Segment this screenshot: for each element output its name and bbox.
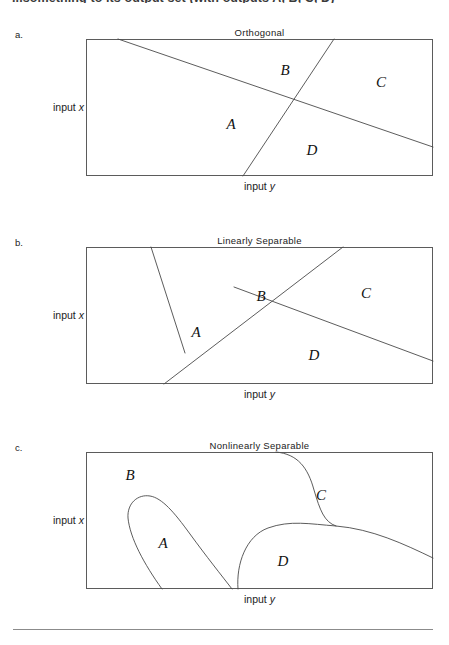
panel-c-region-A: A [157, 535, 168, 551]
figure-page: ...something to its output set (with out… [0, 0, 449, 645]
panel-b-letter: b. [15, 237, 23, 248]
panel-a-letter: a. [15, 29, 23, 40]
panel-a-region-B: B [280, 62, 289, 78]
panel-a-frame [87, 40, 433, 176]
panel-a-x-axis-label: inputx [28, 101, 84, 113]
panel-c-x-axis-label: inputx [28, 514, 84, 526]
axis-label-var: y [267, 180, 275, 192]
panel-a: a. Orthogonal inputx A B C D inputy [0, 25, 449, 205]
axis-label-var: x [76, 101, 84, 113]
panel-b-x-axis-label: inputx [28, 309, 84, 321]
footer-rule [13, 629, 433, 630]
panel-c: c. Nonlinearly Separable inputx B A C D … [0, 438, 449, 618]
panel-b-region-C: C [361, 285, 372, 301]
panel-a-plot: A B C D [86, 39, 433, 176]
panel-b-frame [87, 248, 433, 384]
panel-c-region-D: D [277, 553, 289, 569]
panel-a-region-A: A [225, 116, 236, 132]
panel-b-title: Linearly Separable [86, 235, 433, 246]
panel-b: b. Linearly Separable inputx A B C D inp… [0, 233, 449, 413]
panel-a-region-C: C [376, 74, 387, 90]
axis-label-var: y [267, 593, 275, 605]
panel-c-plot: B A C D [86, 452, 433, 589]
panel-c-title: Nonlinearly Separable [86, 440, 433, 451]
panel-a-y-axis-label: inputy [86, 180, 433, 192]
axis-label-text: input [53, 101, 76, 113]
panel-b-plot: A B C D [86, 247, 433, 384]
running-text: ...something to its output set (with out… [12, 0, 342, 3]
axis-label-var: y [267, 388, 275, 400]
panel-c-frame [87, 453, 433, 589]
panel-b-y-axis-label: inputy [86, 388, 433, 400]
panel-b-region-B: B [256, 288, 265, 304]
panel-c-region-B: B [125, 467, 134, 483]
panel-b-region-D: D [308, 347, 320, 363]
panel-b-region-A: A [190, 324, 201, 340]
axis-label-var: x [76, 514, 84, 526]
panel-c-y-axis-label: inputy [86, 593, 433, 605]
panel-a-title: Orthogonal [86, 27, 433, 38]
axis-label-text: input [244, 593, 267, 605]
panel-a-region-D: D [306, 142, 318, 158]
axis-label-var: x [76, 309, 84, 321]
axis-label-text: input [53, 514, 76, 526]
panel-c-letter: c. [15, 442, 22, 453]
panel-c-region-C: C [316, 487, 327, 503]
axis-label-text: input [53, 309, 76, 321]
axis-label-text: input [244, 388, 267, 400]
axis-label-text: input [244, 180, 267, 192]
